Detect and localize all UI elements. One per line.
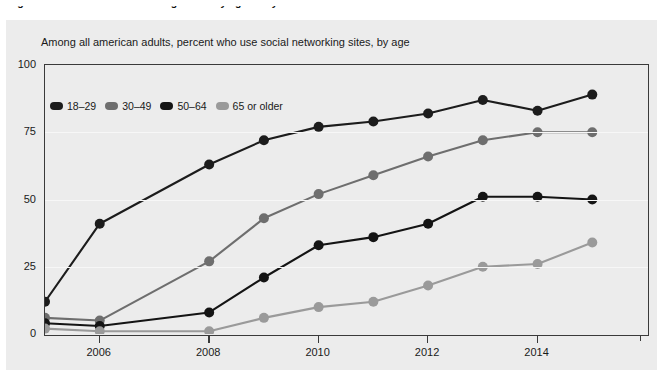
data-point bbox=[314, 240, 324, 250]
data-point bbox=[587, 238, 597, 248]
data-point bbox=[259, 273, 269, 283]
gridline bbox=[45, 200, 648, 201]
series-line bbox=[45, 132, 592, 320]
data-point bbox=[587, 90, 597, 100]
gridline bbox=[45, 267, 648, 268]
data-point bbox=[368, 297, 378, 307]
gridline bbox=[45, 132, 648, 133]
x-tick-label: 2006 bbox=[86, 346, 110, 358]
data-point bbox=[368, 116, 378, 126]
legend-label: 50–64 bbox=[177, 100, 206, 112]
legend-label: 30–49 bbox=[122, 100, 151, 112]
x-tick-mark bbox=[208, 336, 209, 343]
series-line bbox=[45, 243, 592, 332]
legend-label: 65 or older bbox=[233, 100, 283, 112]
data-point bbox=[314, 189, 324, 199]
y-tick-label: 25 bbox=[24, 260, 36, 272]
y-axis: 0255075100 bbox=[6, 64, 40, 336]
x-axis: 20062008201020122014 bbox=[44, 336, 649, 370]
x-tick-mark bbox=[427, 336, 428, 343]
data-point bbox=[478, 135, 488, 145]
x-tick-label: 2008 bbox=[196, 346, 220, 358]
data-point bbox=[368, 232, 378, 242]
x-tick-label: 2010 bbox=[305, 346, 329, 358]
y-tick-label: 50 bbox=[24, 193, 36, 205]
data-point bbox=[533, 106, 543, 116]
legend-item[interactable]: 50–64 bbox=[160, 100, 206, 112]
figure-caption: Figure 1. Social media use among adults … bbox=[8, 0, 648, 10]
data-point bbox=[368, 170, 378, 180]
data-point bbox=[423, 281, 433, 291]
legend-label: 18–29 bbox=[67, 100, 96, 112]
data-point bbox=[259, 213, 269, 223]
chart-container: Among all american adults, percent who u… bbox=[6, 20, 657, 370]
data-point bbox=[423, 219, 433, 229]
x-tick-label: 2014 bbox=[524, 346, 548, 358]
x-tick-label: 2012 bbox=[415, 346, 439, 358]
legend-marker-icon bbox=[50, 102, 63, 110]
y-tick-label: 100 bbox=[18, 58, 36, 70]
legend-marker-icon bbox=[216, 102, 229, 110]
data-point bbox=[204, 160, 214, 170]
data-point bbox=[204, 256, 214, 266]
data-point bbox=[423, 108, 433, 118]
data-point bbox=[259, 313, 269, 323]
legend-item[interactable]: 18–29 bbox=[50, 100, 96, 112]
chart-legend: 18–2930–4950–6465 or older bbox=[50, 100, 283, 112]
data-point bbox=[45, 297, 50, 307]
data-point bbox=[95, 219, 105, 229]
x-tick-mark bbox=[318, 336, 319, 343]
x-tick-mark bbox=[99, 336, 100, 343]
legend-item[interactable]: 65 or older bbox=[216, 100, 283, 112]
data-point bbox=[314, 302, 324, 312]
legend-item[interactable]: 30–49 bbox=[105, 100, 151, 112]
data-point bbox=[204, 307, 214, 317]
data-point bbox=[423, 151, 433, 161]
legend-marker-icon bbox=[160, 102, 173, 110]
y-tick-label: 0 bbox=[30, 327, 36, 339]
y-tick-label: 75 bbox=[24, 125, 36, 137]
data-point bbox=[204, 326, 214, 334]
x-tick-mark bbox=[537, 336, 538, 343]
data-point bbox=[478, 95, 488, 105]
data-point bbox=[314, 122, 324, 132]
chart-subtitle: Among all american adults, percent who u… bbox=[41, 36, 410, 48]
legend-marker-icon bbox=[105, 102, 118, 110]
x-tick-mark bbox=[640, 336, 641, 341]
data-point bbox=[259, 135, 269, 145]
